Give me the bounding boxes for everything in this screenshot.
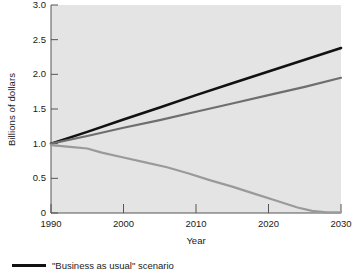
chart-legend: "Business as usual" scenario xyxy=(12,258,174,272)
plot-background xyxy=(51,5,341,213)
legend-line-swatch xyxy=(12,264,46,267)
legend-label: "Business as usual" scenario xyxy=(52,260,174,271)
